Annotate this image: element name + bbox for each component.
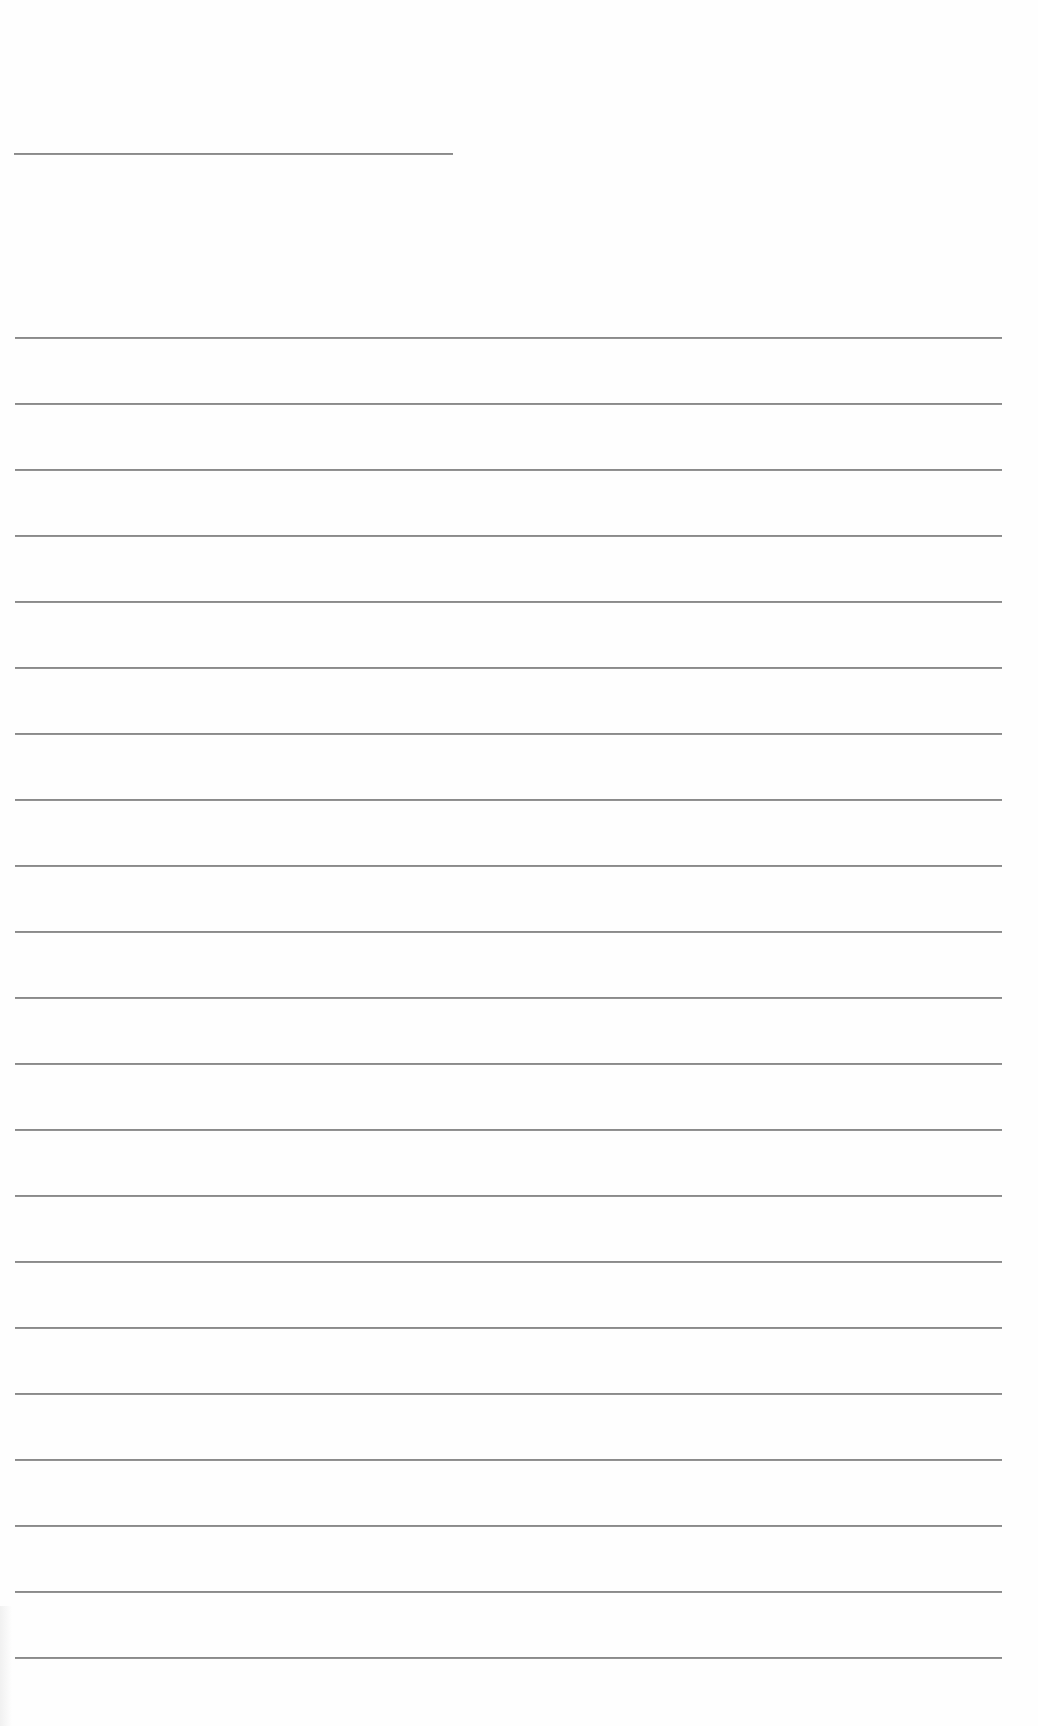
writing-line xyxy=(15,1129,1002,1131)
writing-line xyxy=(15,931,1002,933)
writing-line xyxy=(15,865,1002,867)
writing-line xyxy=(15,733,1002,735)
writing-line xyxy=(15,997,1002,999)
writing-line xyxy=(15,469,1002,471)
lined-paper-page xyxy=(0,0,1038,1726)
page-edge-shadow xyxy=(0,1606,12,1726)
writing-line xyxy=(15,1195,1002,1197)
writing-line xyxy=(15,1657,1002,1659)
writing-line xyxy=(15,535,1002,537)
writing-line xyxy=(15,1393,1002,1395)
writing-line xyxy=(15,667,1002,669)
writing-line xyxy=(15,1459,1002,1461)
writing-line xyxy=(15,1261,1002,1263)
writing-line xyxy=(15,337,1002,339)
writing-line xyxy=(15,1525,1002,1527)
writing-line xyxy=(15,1063,1002,1065)
writing-line xyxy=(15,1591,1002,1593)
writing-line xyxy=(15,601,1002,603)
writing-line xyxy=(15,1327,1002,1329)
header-rule xyxy=(14,153,453,155)
writing-line xyxy=(15,403,1002,405)
writing-line xyxy=(15,799,1002,801)
